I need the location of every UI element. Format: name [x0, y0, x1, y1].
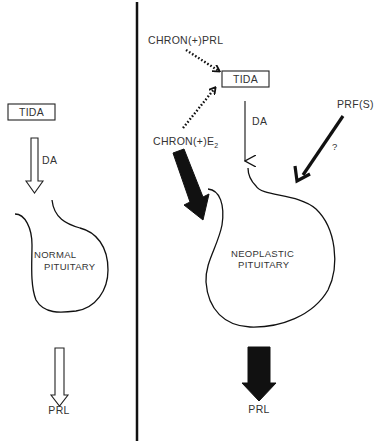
right-panel: CHRON(+)PRL TIDA DA CHRON(+)E2 PRF(S) ? …: [148, 34, 374, 415]
normal-label-line1: NORMAL: [34, 249, 76, 260]
e2-thick-arrow: [173, 149, 209, 220]
da-hollow-arrow-left: [26, 138, 43, 193]
prl-label-left: PRL: [48, 404, 69, 416]
e2-subscript: 2: [214, 142, 218, 149]
tida-label-left: TIDA: [19, 106, 44, 118]
dotted-arrow-prl-to-tida: [186, 50, 219, 71]
da-label-right: DA: [252, 115, 267, 127]
prl-label-right: PRL: [248, 403, 269, 415]
prl-solid-arrow-right: [242, 347, 276, 401]
left-panel: TIDA DA NORMAL PITUITARY PRL: [8, 104, 108, 416]
diagram-canvas: TIDA DA NORMAL PITUITARY PRL CHRON(+)PRL…: [0, 0, 379, 445]
chron-prl-label: CHRON(+)PRL: [148, 34, 223, 46]
dotted-arrow-e2-to-tida: [183, 88, 215, 128]
neoplastic-label-line2: PITUITARY: [238, 259, 290, 270]
tida-label-right: TIDA: [233, 73, 258, 85]
neoplastic-label-line1: NEOPLASTIC: [231, 248, 294, 259]
prf-question-mark: ?: [332, 141, 338, 152]
chron-e2-label: CHRON(+)E2: [153, 135, 219, 149]
normal-label-line2: PITUITARY: [44, 261, 96, 272]
da-label-left: DA: [42, 154, 57, 166]
prf-label: PRF(S): [337, 98, 374, 110]
prl-hollow-arrow-left: [51, 348, 68, 406]
